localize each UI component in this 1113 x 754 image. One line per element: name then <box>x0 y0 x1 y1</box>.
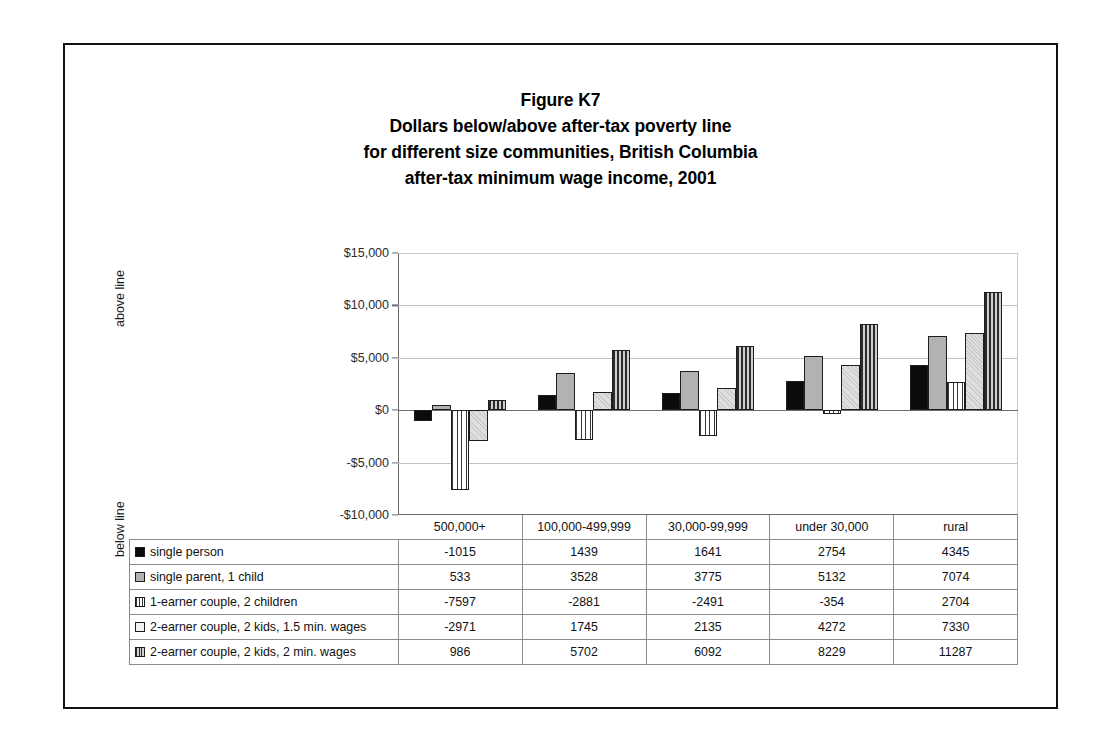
bar <box>928 336 947 410</box>
bar <box>662 393 681 410</box>
bar-group <box>770 253 894 515</box>
figure-frame: Figure K7 Dollars below/above after-tax … <box>63 43 1058 709</box>
table-cell-value: -2491 <box>646 590 770 615</box>
bar <box>612 350 631 410</box>
bar <box>717 388 736 410</box>
table-cell-value: 8229 <box>770 640 894 665</box>
table-cell-value: -354 <box>770 590 894 615</box>
bar <box>699 410 718 436</box>
chart-plot: $15,000$10,000$5,000$0-$5,000-$10,000 <box>398 253 1018 515</box>
table-cell-value: -2971 <box>398 615 522 640</box>
legend-label: single person <box>150 545 224 559</box>
table-cell-value: 2704 <box>894 590 1018 615</box>
table-cell-value: 11287 <box>894 640 1018 665</box>
bar <box>910 365 929 411</box>
legend-swatch-icon <box>135 547 145 557</box>
table-row: 1-earner couple, 2 children-7597-2881-24… <box>130 590 1018 615</box>
table-cell-value: -7597 <box>398 590 522 615</box>
bar <box>593 392 612 410</box>
y-tick-label: $15,000 <box>344 246 389 260</box>
column-header: rural <box>894 515 1018 540</box>
bar <box>451 410 470 490</box>
column-header: under 30,000 <box>770 515 894 540</box>
table-cell-value: 1641 <box>646 540 770 565</box>
bar <box>575 410 594 440</box>
bar <box>786 381 805 410</box>
legend-label: single parent, 1 child <box>150 570 264 584</box>
table-cell-value: 7330 <box>894 615 1018 640</box>
bar <box>984 292 1003 410</box>
axis-label-below-line: below line <box>113 501 127 557</box>
table-cell-value: 986 <box>398 640 522 665</box>
legend-corner-cell <box>130 515 399 540</box>
table-cell-value: 2135 <box>646 615 770 640</box>
column-header: 500,000+ <box>398 515 522 540</box>
table-cell-value: 4345 <box>894 540 1018 565</box>
y-tick-label: $10,000 <box>344 298 389 312</box>
axis-label-above-line: above line <box>113 270 127 327</box>
bar <box>414 410 433 421</box>
bar-group <box>398 253 522 515</box>
legend-label: 2-earner couple, 2 kids, 1.5 min. wages <box>150 620 366 634</box>
table-header-row: 500,000+100,000-499,99930,000-99,999unde… <box>130 515 1018 540</box>
figure-title-block: Figure K7 Dollars below/above after-tax … <box>65 87 1056 191</box>
bar-group <box>894 253 1018 515</box>
bar <box>860 324 879 410</box>
bar <box>823 410 842 414</box>
bar <box>469 410 488 441</box>
y-tick-label: $5,000 <box>351 351 389 365</box>
table-row: 2-earner couple, 2 kids, 1.5 min. wages-… <box>130 615 1018 640</box>
legend-entry: 2-earner couple, 2 kids, 2 min. wages <box>130 640 399 665</box>
column-header: 100,000-499,999 <box>522 515 646 540</box>
table-cell-value: 1745 <box>522 615 646 640</box>
table-row: single person-10151439164127544345 <box>130 540 1018 565</box>
bar <box>538 395 557 410</box>
table-cell-value: 533 <box>398 565 522 590</box>
bar <box>841 365 860 410</box>
bar-group <box>646 253 770 515</box>
legend-entry: 1-earner couple, 2 children <box>130 590 399 615</box>
table-row: 2-earner couple, 2 kids, 2 min. wages986… <box>130 640 1018 665</box>
bar <box>680 371 699 411</box>
bar <box>804 356 823 410</box>
legend-entry: single parent, 1 child <box>130 565 399 590</box>
legend-label: 1-earner couple, 2 children <box>150 595 297 609</box>
bar-group <box>522 253 646 515</box>
table-body: single person-10151439164127544345single… <box>130 540 1018 665</box>
legend-entry: single person <box>130 540 399 565</box>
bar <box>432 405 451 411</box>
legend-swatch-icon <box>135 647 145 657</box>
y-tick-label: -$5,000 <box>347 456 389 470</box>
table-cell-value: 5702 <box>522 640 646 665</box>
bar <box>947 382 966 410</box>
column-header: 30,000-99,999 <box>646 515 770 540</box>
table-cell-value: 5132 <box>770 565 894 590</box>
table-cell-value: 6092 <box>646 640 770 665</box>
bar <box>488 400 507 410</box>
table-cell-value: 1439 <box>522 540 646 565</box>
y-tick-label: $0 <box>375 403 389 417</box>
legend-swatch-icon <box>135 622 145 632</box>
table-cell-value: 4272 <box>770 615 894 640</box>
legend-swatch-icon <box>135 572 145 582</box>
legend-entry: 2-earner couple, 2 kids, 1.5 min. wages <box>130 615 399 640</box>
table-cell-value: -1015 <box>398 540 522 565</box>
title-line-1: Figure K7 <box>65 87 1056 113</box>
title-line-3: for different size communities, British … <box>65 139 1056 165</box>
bar <box>965 333 984 410</box>
table-cell-value: 2754 <box>770 540 894 565</box>
title-line-2: Dollars below/above after-tax poverty li… <box>65 113 1056 139</box>
legend-swatch-icon <box>135 597 145 607</box>
table-cell-value: -2881 <box>522 590 646 615</box>
bar <box>556 373 575 410</box>
title-line-4: after-tax minimum wage income, 2001 <box>65 165 1056 191</box>
table-row: single parent, 1 child533352837755132707… <box>130 565 1018 590</box>
bar <box>736 346 755 410</box>
table-header: 500,000+100,000-499,99930,000-99,999unde… <box>130 515 1018 540</box>
table-cell-value: 3528 <box>522 565 646 590</box>
data-table: 500,000+100,000-499,99930,000-99,999unde… <box>129 515 1018 665</box>
table-cell-value: 7074 <box>894 565 1018 590</box>
legend-label: 2-earner couple, 2 kids, 2 min. wages <box>150 645 356 659</box>
table-cell-value: 3775 <box>646 565 770 590</box>
